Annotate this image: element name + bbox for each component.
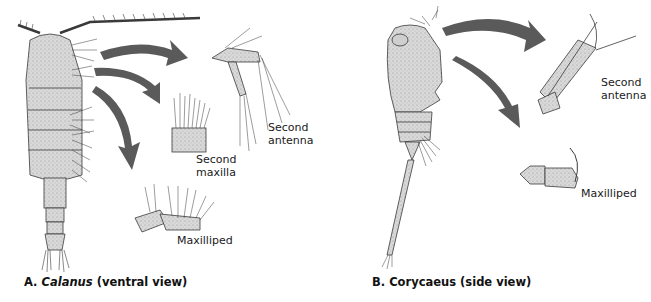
corycaeus-maxilliped-illustration [520, 148, 578, 188]
label-second-antenna-b: Second antenna [601, 76, 646, 102]
caption-genus: Corycaeus [389, 275, 456, 289]
label-second-maxilla: Second maxilla [196, 153, 236, 179]
calanus-maxilliped-illustration [135, 184, 214, 232]
corycaeus-body-illustration [382, 6, 442, 269]
label-second-antenna-a: Second antenna [268, 121, 313, 147]
label-line: Second [601, 76, 646, 89]
label-line: antenna [601, 89, 646, 102]
caption-suffix: (ventral view) [97, 275, 188, 289]
copepod-diagram [0, 0, 651, 302]
label-line: antenna [268, 134, 313, 147]
caption-panel-b: B. Corycaeus (side view) [372, 275, 531, 289]
label-maxilliped-b: Maxilliped [581, 187, 637, 200]
label-maxilliped-a: Maxilliped [177, 234, 233, 247]
caption-genus: Calanus [42, 275, 93, 289]
label-line: Second [196, 153, 236, 166]
caption-prefix: A. [24, 275, 37, 289]
label-line: Second [268, 121, 313, 134]
label-line: maxilla [196, 166, 236, 179]
arrow-icon [442, 19, 546, 128]
caption-suffix: (side view) [460, 275, 531, 289]
calanus-second-maxilla-illustration [172, 93, 210, 152]
caption-prefix: B. [372, 275, 385, 289]
caption-panel-a: A. Calanus (ventral view) [24, 275, 187, 289]
